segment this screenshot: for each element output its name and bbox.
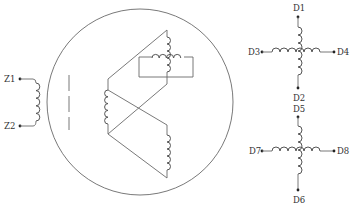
lower-right-coil-icon <box>167 135 171 170</box>
cross-winding-top: D1 D2 D3 D4 <box>248 3 349 103</box>
label-d6: D6 <box>293 195 305 205</box>
label-z1: Z1 <box>4 74 15 84</box>
cross-winding-bottom: D5 D6 D7 D8 <box>249 104 349 205</box>
d7-d8-coil-icon <box>272 147 320 151</box>
d1-d2-coil-icon <box>298 27 302 75</box>
left-coil-icon <box>105 90 108 124</box>
field-coil-icon <box>36 83 40 121</box>
label-d1: D1 <box>293 3 305 13</box>
label-z2: Z2 <box>4 121 15 131</box>
winding-diagram: Z1 Z2 D1 D2 D3 <box>0 0 353 208</box>
label-d3: D3 <box>248 47 260 57</box>
box-coil-icon <box>152 54 181 58</box>
label-d4: D4 <box>337 47 349 57</box>
d3-d4-coil-icon <box>272 48 320 52</box>
d5-d6-coil-icon <box>298 126 302 174</box>
field-winding: Z1 Z2 <box>4 74 40 131</box>
label-d8: D8 <box>337 146 349 156</box>
label-d7: D7 <box>249 146 261 156</box>
armature-winding <box>105 30 193 178</box>
rotor-circle <box>47 9 233 195</box>
label-d2: D2 <box>293 93 305 103</box>
label-d5: D5 <box>293 104 305 114</box>
